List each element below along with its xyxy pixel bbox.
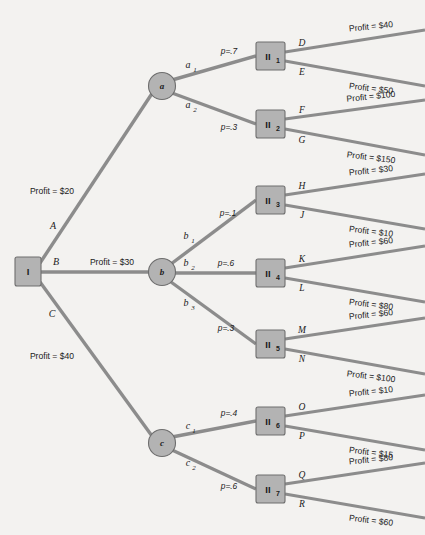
node-root-I-label: I: [27, 266, 30, 277]
branch-label-b3: b: [184, 297, 189, 308]
prob-b3: p=.3: [217, 323, 235, 333]
outcome-label-Q: Q: [299, 470, 306, 480]
outcome-label-M: M: [297, 325, 307, 335]
branch-label-B: B: [53, 256, 59, 267]
node-II6[interactable]: II 6: [256, 407, 285, 435]
payoff-B: Profit = $30: [90, 257, 134, 267]
b-edges: [171, 200, 256, 344]
root-branch-C: C Profit = $40: [30, 308, 74, 361]
node-II2-sub: 2: [276, 125, 280, 132]
outcome-label-L: L: [298, 283, 304, 293]
c-edges: [172, 421, 256, 489]
outcome-payoff-H: Profit = $30: [348, 163, 393, 178]
node-II2-label: II: [265, 119, 270, 130]
branch-label-b1: b: [184, 230, 189, 241]
node-II2[interactable]: II 2: [256, 110, 285, 138]
node-II6-sub: 6: [276, 422, 280, 429]
edge-c-to-II6: [172, 421, 256, 437]
node-b[interactable]: b: [149, 259, 176, 286]
branch-b3: b 3 p=.3: [184, 297, 235, 333]
outcome-label-K: K: [298, 254, 306, 264]
branch-b2: b 2 p=.6: [184, 257, 235, 271]
node-II4-sub: 4: [276, 274, 280, 281]
node-b-label: b: [160, 267, 165, 277]
root-branch-B: B Profit = $30: [53, 256, 134, 267]
payoff-C: Profit = $40: [30, 351, 74, 361]
node-II7-sub: 7: [276, 490, 280, 497]
edge-II5-M: [285, 318, 425, 339]
edge-II7-Q: [285, 463, 425, 484]
edge-c-to-II7: [172, 450, 256, 489]
root-branch-A: A Profit = $20: [30, 186, 74, 231]
branch-label-c2: c: [186, 457, 191, 468]
outcome-label-D: D: [298, 38, 306, 48]
outcome-payoff-N: Profit = $100: [346, 368, 396, 384]
node-root-I[interactable]: I: [15, 257, 41, 286]
branch-label-c1: c: [186, 420, 191, 431]
branch-sub-a2: 2: [193, 106, 197, 114]
outcome-payoff-R: Profit = $60: [349, 513, 394, 528]
outcome-label-F: F: [298, 105, 305, 115]
node-a[interactable]: a: [149, 73, 176, 100]
edge-II6-O: [285, 395, 425, 416]
node-II4-label: II: [265, 268, 270, 279]
edge-II3-H: [285, 174, 425, 195]
edge-root-to-a: [40, 92, 153, 263]
branch-sub-c2: 2: [192, 464, 196, 472]
outcome-label-P: P: [298, 431, 305, 441]
node-II5-label: II: [265, 339, 270, 350]
node-II7[interactable]: II 7: [256, 475, 285, 503]
prob-c2: p=.6: [220, 481, 238, 491]
branch-b1: b 1 p=.1: [184, 208, 237, 244]
outcome-label-H: H: [298, 181, 307, 191]
edge-II1-D: [285, 30, 425, 52]
branch-label-C: C: [49, 308, 56, 319]
edge-II4-K: [285, 246, 425, 268]
node-II1-sub: 1: [276, 57, 280, 64]
node-c-label: c: [160, 438, 164, 448]
node-II6-label: II: [265, 416, 270, 427]
node-II3-label: II: [265, 195, 270, 206]
prob-a2: p=.3: [220, 122, 238, 132]
node-c[interactable]: c: [149, 430, 176, 457]
branch-c2: c 2 p=.6: [186, 457, 238, 491]
node-II1-label: II: [265, 51, 270, 62]
node-II1[interactable]: II 1: [256, 42, 285, 70]
branch-sub-b3: 3: [190, 304, 195, 312]
node-II5-sub: 5: [276, 345, 280, 352]
node-II7-label: II: [265, 484, 270, 495]
prob-c1: p=.4: [220, 408, 238, 418]
node-II3[interactable]: II 3: [256, 186, 285, 214]
branch-sub-b2: 2: [191, 264, 195, 272]
outcome-payoff-K: Profit = $60: [348, 235, 393, 250]
outcome-label-G: G: [299, 135, 306, 145]
prob-b2: p=.6: [217, 258, 235, 268]
node-II5[interactable]: II 5: [256, 330, 285, 358]
prob-b1: p=.1: [219, 208, 237, 218]
branch-sub-a1: 1: [193, 66, 197, 74]
node-II4[interactable]: II 4: [256, 259, 285, 287]
outcome-payoff-D: Profit = $40: [348, 19, 393, 34]
outcome-payoff-M: Profit = $60: [348, 307, 393, 322]
edge-b-to-II5: [171, 282, 256, 344]
outcome-label-J: J: [300, 210, 305, 220]
outcome-label-E: E: [298, 67, 305, 77]
outcome-label-O: O: [299, 402, 306, 412]
payoff-A: Profit = $20: [30, 186, 74, 196]
outcome-payoff-O: Profit = $10: [348, 384, 393, 399]
branch-label-a2: a: [186, 99, 191, 110]
branch-label-b2: b: [184, 257, 189, 268]
node-II3-sub: 3: [276, 201, 280, 208]
decision-tree-diagram: I a b c II 1 II 2 II 3 II 4 II 5 II: [0, 0, 425, 535]
outcome-label-N: N: [298, 354, 306, 364]
branch-sub-b1: 1: [191, 237, 195, 245]
node-a-label: a: [160, 81, 165, 91]
branch-label-A: A: [49, 220, 57, 231]
branch-label-a1: a: [186, 59, 191, 70]
prob-a1: p=.7: [220, 46, 238, 56]
branch-sub-c1: 1: [192, 427, 196, 435]
outcome-label-R: R: [298, 499, 305, 509]
